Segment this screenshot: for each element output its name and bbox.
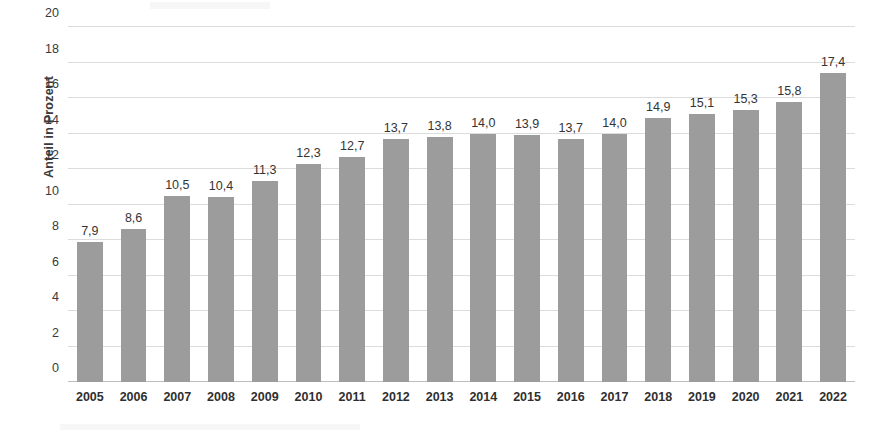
- bar-value-label: 11,3: [243, 163, 287, 177]
- bar: [208, 197, 234, 382]
- bar-cell: 8,6: [112, 27, 156, 382]
- x-axis-labels: 2005200620072008200920102011201220132014…: [68, 390, 855, 404]
- bar-cell: 13,7: [374, 27, 418, 382]
- x-axis-tick-label: 2009: [243, 390, 287, 404]
- x-axis-tick-label: 2017: [593, 390, 637, 404]
- bar-cell: 10,4: [199, 27, 243, 382]
- bar-cell: 15,8: [768, 27, 812, 382]
- y-axis-tick-label: 2: [52, 326, 59, 340]
- x-axis-tick-label: 2011: [330, 390, 374, 404]
- x-axis-tick-label: 2007: [155, 390, 199, 404]
- bar-cell: 14,0: [461, 27, 505, 382]
- bar-value-label: 15,3: [724, 92, 768, 106]
- y-axis-tick-label: 4: [52, 290, 59, 304]
- bar-value-label: 12,7: [330, 139, 374, 153]
- bar-value-label: 10,5: [155, 178, 199, 192]
- x-axis-tick-label: 2006: [112, 390, 156, 404]
- x-axis-tick-label: 2018: [636, 390, 680, 404]
- bar-cell: 14,0: [593, 27, 637, 382]
- y-axis-tick-label: 6: [52, 255, 59, 269]
- bar-cell: 17,4: [811, 27, 855, 382]
- plot-area: 02468101214161820 7,98,610,510,411,312,3…: [68, 27, 855, 382]
- x-axis-tick-label: 2020: [724, 390, 768, 404]
- bar-value-label: 13,7: [549, 121, 593, 135]
- bar: [602, 134, 628, 383]
- bar-value-label: 12,3: [287, 146, 331, 160]
- bar-cell: 12,7: [330, 27, 374, 382]
- x-axis-tick-label: 2013: [418, 390, 462, 404]
- bar: [164, 196, 190, 382]
- y-axis-tick-label: 18: [45, 42, 59, 56]
- bar-value-label: 10,4: [199, 179, 243, 193]
- y-axis-tick-label: 8: [52, 219, 59, 233]
- x-axis-tick-label: 2012: [374, 390, 418, 404]
- bar-cell: 7,9: [68, 27, 112, 382]
- bar-cell: 11,3: [243, 27, 287, 382]
- x-axis-tick-label: 2021: [768, 390, 812, 404]
- bar-cell: 13,8: [418, 27, 462, 382]
- bar: [339, 157, 365, 382]
- x-axis-tick-label: 2014: [461, 390, 505, 404]
- y-axis-tick-label: 14: [45, 113, 59, 127]
- y-axis-tick-label: 16: [45, 77, 59, 91]
- bar: [427, 137, 453, 382]
- bar: [470, 134, 496, 383]
- y-axis-tick-label: 12: [45, 148, 59, 162]
- bar-value-label: 8,6: [112, 211, 156, 225]
- x-axis-tick-label: 2022: [811, 390, 855, 404]
- bar-value-label: 15,1: [680, 96, 724, 110]
- bar: [296, 164, 322, 382]
- x-axis-tick-label: 2005: [68, 390, 112, 404]
- bar: [252, 181, 278, 382]
- bar: [645, 118, 671, 382]
- bar-value-label: 14,0: [461, 116, 505, 130]
- bar-value-label: 13,8: [418, 119, 462, 133]
- bar-value-label: 15,8: [768, 84, 812, 98]
- bar: [514, 135, 540, 382]
- bar-cell: 15,1: [680, 27, 724, 382]
- bar-value-label: 13,9: [505, 117, 549, 131]
- bar-cell: 10,5: [155, 27, 199, 382]
- bar-cell: 15,3: [724, 27, 768, 382]
- bar-value-label: 13,7: [374, 121, 418, 135]
- scan-artifact: [150, 2, 270, 9]
- bar: [558, 139, 584, 382]
- x-axis-tick-label: 2019: [680, 390, 724, 404]
- x-axis-tick-label: 2008: [199, 390, 243, 404]
- y-axis-tick-label: 10: [45, 184, 59, 198]
- x-axis-tick-label: 2016: [549, 390, 593, 404]
- y-axis-tick-label: 20: [45, 6, 59, 20]
- bar: [776, 102, 802, 382]
- bar: [820, 73, 846, 382]
- bar: [77, 242, 103, 382]
- scan-artifact: [60, 424, 360, 430]
- bar: [733, 110, 759, 382]
- bar-value-label: 14,0: [593, 116, 637, 130]
- bar-value-label: 17,4: [811, 55, 855, 69]
- x-axis-tick-label: 2015: [505, 390, 549, 404]
- bar-chart: Anteil in Prozent 02468101214161820 7,98…: [0, 0, 877, 435]
- y-axis-tick-label: 0: [52, 361, 59, 375]
- bar: [383, 139, 409, 382]
- bar-series: 7,98,610,510,411,312,312,713,713,814,013…: [68, 27, 855, 382]
- bar-cell: 14,9: [636, 27, 680, 382]
- bar-cell: 13,7: [549, 27, 593, 382]
- bar: [121, 229, 147, 382]
- bar-cell: 12,3: [287, 27, 331, 382]
- bar: [689, 114, 715, 382]
- x-axis-tick-label: 2010: [287, 390, 331, 404]
- bar-value-label: 14,9: [636, 100, 680, 114]
- bar-value-label: 7,9: [68, 224, 112, 238]
- bar-cell: 13,9: [505, 27, 549, 382]
